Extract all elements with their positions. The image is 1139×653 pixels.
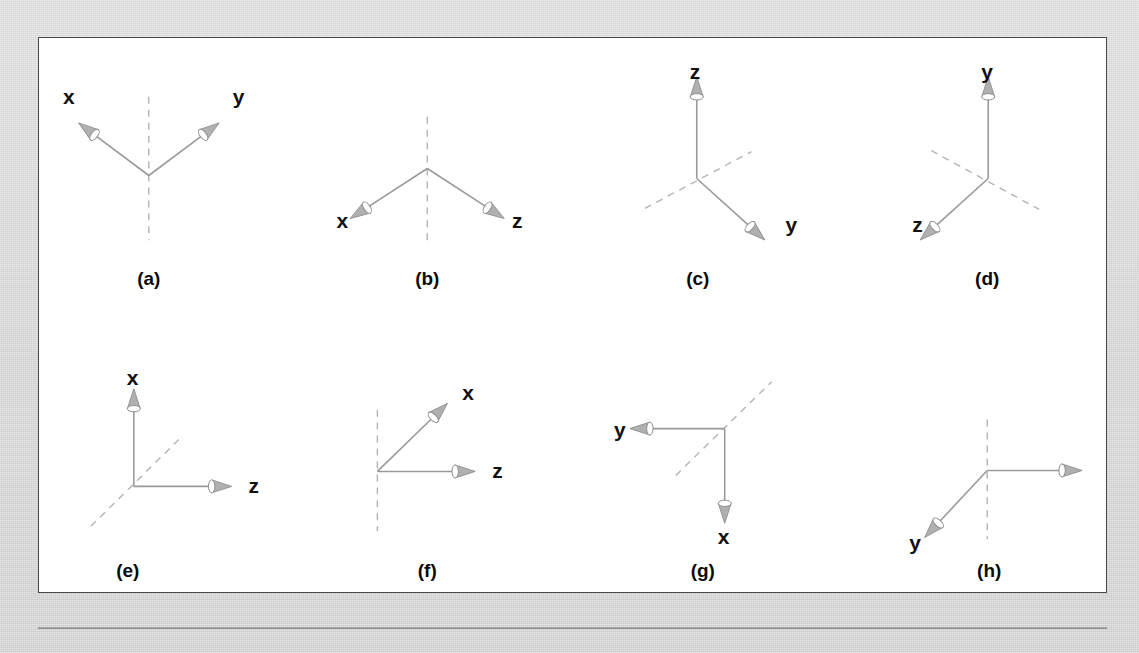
- arrowhead-base-ellipse-y: [647, 422, 653, 435]
- coordinate-axes-figure: xy(a)xz(b)zy(c)yz(d)xz(e)xz(f)yx(g)zy(h): [39, 38, 1106, 592]
- panel-caption: (g): [691, 560, 715, 581]
- axis-label-x: x: [63, 85, 75, 108]
- arrowhead-base-ellipse-z: [690, 94, 703, 100]
- axis-label-y: y: [981, 60, 993, 83]
- panel-caption: (e): [116, 560, 139, 581]
- panel-caption: (a): [137, 268, 160, 289]
- axis-shaft-z: [935, 178, 988, 226]
- axis-shaft-x: [377, 417, 433, 471]
- panel-caption: (d): [975, 268, 999, 289]
- axis-label-z: z: [249, 474, 259, 497]
- axis-panel-g: yx(g): [614, 382, 772, 581]
- axis-shaft-y: [697, 178, 750, 226]
- arrowhead-base-ellipse-z: [1059, 464, 1065, 477]
- axis-panel-f: xz(f): [377, 381, 502, 581]
- axis-label-y: y: [786, 213, 798, 236]
- panel-caption: (f): [418, 560, 437, 581]
- axis-panel-a: xy(a): [63, 85, 245, 289]
- axis-shaft-y: [938, 470, 987, 522]
- panels-group: xy(a)xz(b)zy(c)yz(d)xz(e)xz(f)yx(g)zy(h): [63, 60, 1106, 581]
- dashed-hidden-axis: [931, 151, 1039, 210]
- axis-label-z: z: [512, 209, 522, 232]
- arrowhead-base-ellipse-x: [127, 405, 140, 411]
- axis-shaft-x: [94, 135, 148, 176]
- axis-shaft-y: [149, 135, 203, 176]
- arrowhead-base-ellipse-z: [208, 480, 214, 493]
- panel-caption: (c): [686, 268, 709, 289]
- axis-panel-b: xz(b): [336, 117, 522, 289]
- axis-label-x: x: [718, 525, 730, 548]
- dashed-hidden-axis: [91, 440, 179, 527]
- axis-shaft-x: [367, 169, 427, 208]
- axis-label-y: y: [909, 531, 921, 554]
- axis-label-y: y: [233, 85, 245, 108]
- horizontal-rule: [38, 627, 1107, 629]
- arrowhead-base-ellipse-z: [452, 465, 458, 478]
- arrowhead-base-ellipse-x: [718, 500, 731, 506]
- panel-caption: (b): [415, 268, 439, 289]
- axis-shaft-z: [427, 169, 487, 208]
- axis-label-y: y: [614, 418, 626, 441]
- axis-panel-e: xz(e): [91, 366, 259, 581]
- figure-panel: xy(a)xz(b)zy(c)yz(d)xz(e)xz(f)yx(g)zy(h): [38, 37, 1107, 593]
- axis-panel-h: zy(h): [909, 420, 1106, 581]
- axis-label-z: z: [912, 213, 922, 236]
- axis-label-z: z: [492, 459, 502, 482]
- axis-panel-c: zy(c): [645, 60, 798, 289]
- axis-label-z: z: [690, 60, 700, 83]
- panel-caption: (h): [977, 560, 1001, 581]
- axis-label-x: x: [462, 381, 474, 404]
- axis-label-x: x: [127, 366, 139, 389]
- arrowhead-base-ellipse-y: [982, 94, 995, 100]
- axis-panel-d: yz(d): [912, 60, 1039, 289]
- axis-label-x: x: [336, 209, 348, 232]
